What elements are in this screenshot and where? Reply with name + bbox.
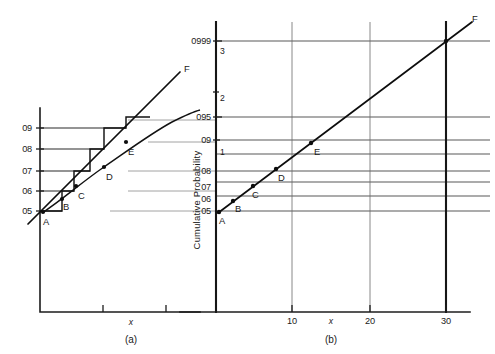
- panel-b-point-label-b: B: [235, 203, 241, 214]
- panel-b-x-ticks: [292, 305, 446, 312]
- panel-b-z-label-3: 3: [220, 46, 225, 56]
- panel-a-caption: (a): [125, 334, 137, 345]
- panel-b-prob-label-08: 08: [201, 166, 211, 176]
- panel-a-x-ticks: [103, 305, 166, 312]
- panel-b-xtick-30: 30: [441, 316, 451, 326]
- panel-a-ytick-07: 07: [22, 166, 32, 176]
- panel-a-point-label-a: A: [43, 216, 50, 227]
- panel-a-ytick-05: 05: [22, 206, 32, 216]
- panel-a-ytick-09: 09: [22, 123, 32, 133]
- panel-b: 0999 095 09 08 07 06 05 3 2 1 A B C D E …: [180, 13, 490, 345]
- two-panel-probability-figure: 09 08 07 06 05 A B C D E F x (a): [0, 0, 495, 354]
- panel-b-line-f: [218, 22, 472, 213]
- panel-a-line-f: [28, 72, 180, 224]
- panel-b-line-label-f: F: [472, 13, 478, 24]
- figure-root: 09 08 07 06 05 A B C D E F x (a): [0, 0, 495, 354]
- panel-b-point-label-c: C: [252, 189, 259, 200]
- panel-a-ytick-08: 08: [22, 144, 32, 154]
- panel-a-point-label-e: E: [128, 146, 134, 157]
- panel-b-z-label-1: 1: [220, 147, 225, 157]
- panel-a-point-label-d: D: [106, 171, 113, 182]
- panel-b-point-label-a: A: [219, 215, 226, 226]
- panel-a-ytick-06: 06: [22, 186, 32, 196]
- panel-b-z-label-2: 2: [220, 93, 225, 103]
- panel-b-prob-label-0999: 0999: [191, 36, 211, 46]
- panel-a-xlabel: x: [128, 317, 134, 327]
- panel-a-data-points: [41, 140, 128, 214]
- panel-a-point-label-b: B: [63, 201, 69, 212]
- panel-a-empirical-step-cdf: [44, 117, 150, 211]
- panel-a: 09 08 07 06 05 A B C D E F x (a): [22, 63, 200, 345]
- panel-b-ylabel: Cumulative Probability: [191, 151, 202, 250]
- panel-b-xlabel: x: [328, 316, 334, 326]
- panel-a-line-label-f: F: [184, 63, 190, 74]
- panel-b-prob-label-09: 09: [201, 135, 211, 145]
- panel-a-normal-cdf-curve: [42, 110, 200, 213]
- panel-b-prob-label-05: 05: [201, 206, 211, 216]
- panel-b-prob-label-07: 07: [201, 182, 211, 192]
- panel-b-horizontal-gridlines: [215, 41, 490, 211]
- panel-b-vertical-gridlines: [292, 22, 370, 312]
- panel-b-prob-label-06: 06: [201, 194, 211, 204]
- panel-b-xtick-20: 20: [365, 316, 375, 326]
- panel-b-point-label-d: D: [278, 172, 285, 183]
- panel-b-prob-label-095: 095: [196, 112, 211, 122]
- panel-b-point-label-e: E: [314, 146, 320, 157]
- panel-b-caption: (b): [325, 334, 337, 345]
- panel-a-point-label-c: C: [78, 190, 85, 201]
- panel-b-xtick-10: 10: [287, 316, 297, 326]
